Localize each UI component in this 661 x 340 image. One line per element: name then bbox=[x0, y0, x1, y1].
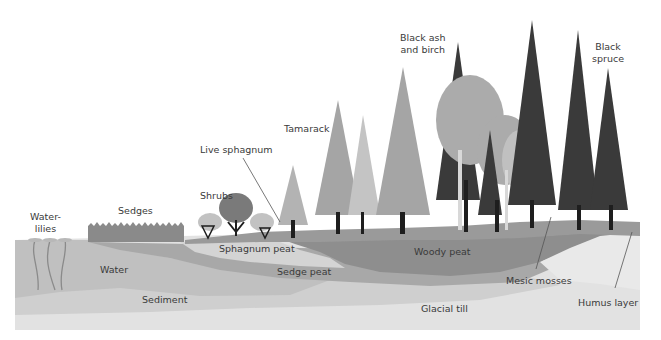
label-sediment: Sediment bbox=[142, 294, 187, 306]
tamarack-trees bbox=[278, 67, 430, 238]
label-black-spruce: Black spruce bbox=[592, 41, 624, 65]
label-black-ash-birch: Black ash and birch bbox=[400, 32, 446, 56]
label-glacial-till: Glacial till bbox=[421, 303, 468, 315]
sedges bbox=[88, 222, 184, 242]
label-humus-layer: Humus layer bbox=[578, 297, 638, 309]
label-live-sphagnum: Live sphagnum bbox=[200, 144, 273, 156]
label-woody-peat: Woody peat bbox=[414, 246, 471, 258]
label-shrubs: Shrubs bbox=[200, 190, 233, 202]
label-sedge-peat: Sedge peat bbox=[277, 266, 331, 278]
label-water: Water bbox=[100, 264, 128, 276]
label-sedges: Sedges bbox=[118, 205, 153, 217]
label-mesic-mosses: Mesic mosses bbox=[506, 275, 572, 287]
bog-succession-diagram bbox=[0, 0, 661, 340]
label-water-lilies: Water- lilies bbox=[30, 211, 61, 235]
label-sphagnum-peat: Sphagnum peat bbox=[219, 243, 295, 255]
label-tamarack: Tamarack bbox=[284, 123, 330, 135]
